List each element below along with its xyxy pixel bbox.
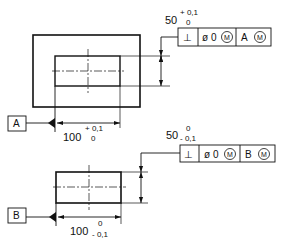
datum-reference: B [245, 149, 252, 160]
width-lower-tol: - 0,1 [92, 230, 109, 239]
height-lower-tol: 0 [186, 18, 191, 27]
perpendicularity-symbol: ⊥ [184, 149, 193, 160]
width-lower-tol: 0 [91, 134, 96, 143]
feature-control-frame-b: ⊥ ø 0 M B M [180, 145, 275, 162]
svg-text:M: M [224, 34, 230, 41]
fcf-leader [161, 37, 178, 56]
datum-triangle-icon [49, 212, 56, 222]
tolerance-value: ø 0 [202, 32, 217, 43]
width-nominal: 100 [63, 131, 81, 143]
svg-text:M: M [227, 151, 233, 158]
height-lower-tol: - 0,1 [180, 134, 197, 143]
view-b: 50 0 - 0,1 ⊥ ø 0 M B M 100 0 - 0,1 B [8, 124, 275, 239]
engineering-drawing: 50 + 0,1 0 ⊥ ø 0 M A M 100 + 0,1 0 A [0, 0, 282, 245]
height-nominal: 50 [165, 14, 177, 26]
perpendicularity-symbol: ⊥ [183, 32, 192, 43]
pin-feature [56, 172, 121, 203]
height-upper-tol: 0 [186, 124, 191, 133]
width-nominal: 100 [70, 225, 88, 237]
datum-reference: A [241, 32, 248, 43]
datum-triangle-icon [48, 118, 55, 128]
width-upper-tol: + 0,1 [85, 124, 104, 133]
drawing-svg: 50 + 0,1 0 ⊥ ø 0 M A M 100 + 0,1 0 A [0, 0, 282, 245]
svg-text:M: M [261, 151, 267, 158]
svg-text:M: M [257, 34, 263, 41]
height-upper-tol: + 0,1 [180, 8, 199, 17]
width-upper-tol: 0 [98, 219, 103, 228]
fcf-leader [141, 153, 180, 172]
view-a: 50 + 0,1 0 ⊥ ø 0 M A M 100 + 0,1 0 A [8, 8, 271, 143]
height-nominal: 50 [166, 129, 178, 141]
feature-control-frame-a: ⊥ ø 0 M A M [178, 28, 271, 46]
datum-a-label: A [13, 118, 20, 129]
tolerance-value: ø 0 [204, 149, 219, 160]
datum-b-label: B [13, 210, 20, 221]
